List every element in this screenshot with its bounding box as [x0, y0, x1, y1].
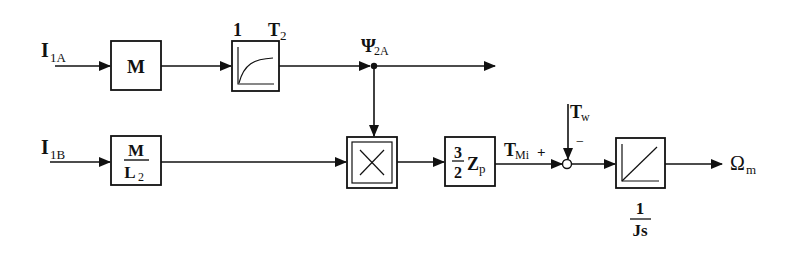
omega-output-label: Ω m	[730, 152, 756, 177]
block-diagram: I 1A M 1 T 2 Ψ 2A I 1B M L 2	[0, 0, 802, 253]
svg-text:T: T	[268, 20, 280, 40]
summing-junction	[563, 160, 572, 169]
svg-text:+: +	[537, 144, 546, 160]
svg-text:1A: 1A	[50, 50, 67, 65]
svg-text:Js: Js	[632, 221, 648, 240]
tmi-label: T Mi +	[504, 140, 546, 162]
gain-m-block: M	[111, 41, 161, 90]
svg-text:w: w	[581, 110, 590, 124]
torque-gain-block: 3 2 Z p	[445, 137, 495, 186]
svg-text:3: 3	[454, 144, 462, 161]
tw-minus-sign: −	[576, 134, 584, 149]
svg-text:2A: 2A	[374, 44, 389, 58]
svg-text:2: 2	[454, 164, 462, 181]
svg-text:I: I	[41, 39, 49, 61]
svg-text:1: 1	[636, 199, 645, 218]
integrator-block: 1 Js	[616, 138, 665, 240]
svg-text:1: 1	[233, 20, 242, 40]
svg-text:2: 2	[138, 170, 144, 184]
input-i1a-label: I 1A	[41, 39, 67, 65]
svg-text:Mi: Mi	[515, 148, 530, 162]
multiplier-block	[347, 137, 397, 188]
svg-text:Z: Z	[467, 154, 479, 174]
svg-text:M: M	[128, 141, 144, 160]
pt1-lag-block: 1 T 2	[232, 20, 287, 91]
svg-text:p: p	[479, 161, 486, 176]
svg-text:m: m	[746, 162, 756, 177]
svg-text:2: 2	[280, 28, 287, 43]
tw-label: T w	[570, 102, 590, 124]
psi2a-label: Ψ 2A	[361, 35, 389, 58]
gain-m-over-l2-block: M L 2	[111, 136, 161, 185]
input-i1b-label: I 1B	[41, 136, 66, 162]
svg-text:I: I	[41, 136, 49, 158]
svg-text:Ω: Ω	[730, 152, 745, 174]
svg-text:M: M	[127, 56, 145, 77]
svg-text:L: L	[124, 163, 135, 182]
svg-text:1B: 1B	[50, 147, 66, 162]
